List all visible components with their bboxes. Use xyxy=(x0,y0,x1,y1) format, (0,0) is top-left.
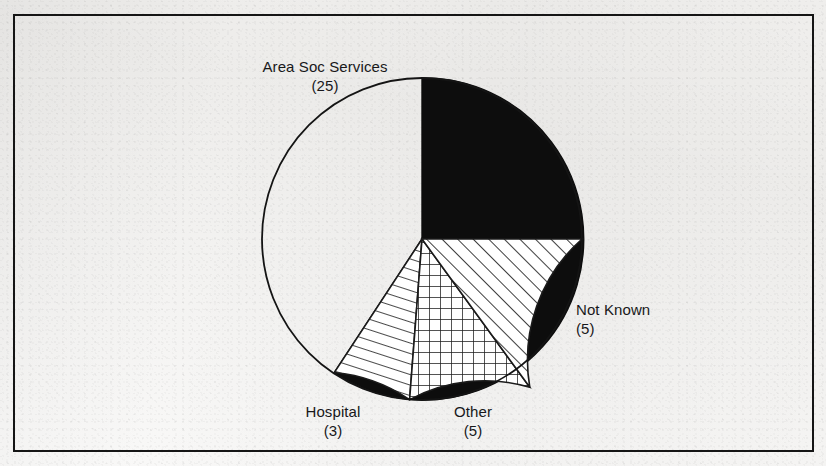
pie-label-not-known: Not Known (5) xyxy=(576,300,706,338)
pie-label-other-value: (5) xyxy=(418,421,528,440)
pie-label-area-soc-services: Area Soc Services (25) xyxy=(230,57,420,95)
pie-label-other-name: Other xyxy=(454,403,492,420)
pie-label-not-known-name: Not Known xyxy=(576,301,650,318)
pie-label-other: Other (5) xyxy=(418,402,528,440)
pie-label-area-soc-services-name: Area Soc Services xyxy=(262,58,387,75)
pie-label-hospital-name: Hospital xyxy=(306,403,361,420)
pie-label-hospital: Hospital (3) xyxy=(278,402,388,440)
pie-label-area-soc-services-value: (25) xyxy=(230,76,420,95)
pie-label-not-known-value: (5) xyxy=(576,319,706,338)
pie-label-hospital-value: (3) xyxy=(278,421,388,440)
